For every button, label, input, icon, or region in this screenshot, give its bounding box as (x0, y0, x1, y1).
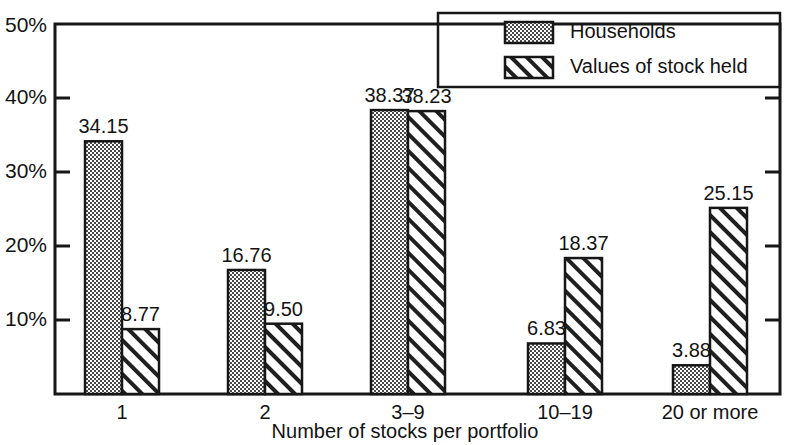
value-label-values-3: 18.37 (558, 232, 608, 254)
bar-chart-canvas: 50% 40% 30% 20% 10% 34.158.7716.769.5038… (0, 0, 795, 445)
value-label-values-4: 25.15 (703, 182, 753, 204)
bar-values-0 (122, 329, 159, 394)
value-label-values-1: 9.50 (264, 298, 303, 320)
value-label-households-3: 6.83 (527, 317, 566, 339)
category-label-0: 1 (116, 401, 127, 423)
bar-values-2 (408, 111, 445, 394)
category-label-1: 2 (259, 401, 270, 423)
value-label-households-1: 16.76 (221, 244, 271, 266)
category-label-4: 20 or more (662, 401, 759, 423)
bar-households-2 (371, 110, 408, 394)
legend-label-values: Values of stock held (570, 55, 748, 77)
bar-households-1 (228, 270, 265, 394)
bar-values-1 (265, 324, 302, 394)
category-label-3: 10–19 (537, 401, 593, 423)
bar-values-3 (565, 258, 602, 394)
x-axis-title: Number of stocks per portfolio (272, 420, 539, 442)
bar-households-0 (85, 141, 122, 394)
y-tick-label-40: 40% (5, 85, 47, 108)
bar-households-3 (528, 343, 565, 394)
value-label-households-4: 3.88 (672, 339, 711, 361)
legend-swatch-households (505, 22, 553, 43)
y-tick-label-50: 50% (5, 13, 47, 36)
bar-households-4 (673, 365, 710, 394)
legend-label-households: Households (570, 20, 676, 42)
value-label-values-0: 8.77 (121, 303, 160, 325)
value-label-values-2: 38.23 (401, 85, 451, 107)
y-tick-label-30: 30% (5, 159, 47, 182)
bar-values-4 (710, 208, 747, 394)
value-label-households-0: 34.15 (78, 115, 128, 137)
y-tick-label-20: 20% (5, 233, 47, 256)
legend-swatch-values (505, 57, 553, 78)
y-tick-label-10: 10% (5, 307, 47, 330)
chart-figure: 50% 40% 30% 20% 10% 34.158.7716.769.5038… (0, 0, 795, 445)
